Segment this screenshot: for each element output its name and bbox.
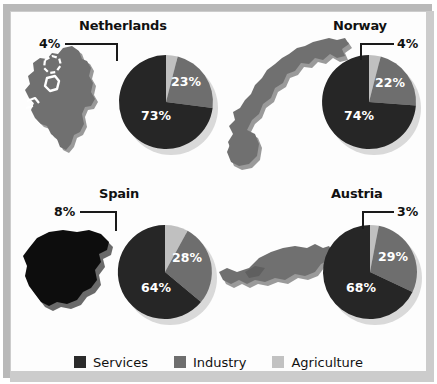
pie-netherlands: 23% 73% [116, 52, 220, 156]
legend-item-services[interactable]: Services [74, 355, 148, 370]
pie-label-industry: 28% [172, 250, 202, 265]
panel-spain: Spain 28% [11, 180, 219, 348]
callout-leader-horizontal [80, 211, 116, 213]
legend: Services Industry Agriculture [11, 348, 426, 371]
legend-item-industry[interactable]: Industry [174, 355, 246, 370]
callout-leader-horizontal [362, 211, 394, 213]
callout-spain-agriculture: 8% [54, 204, 75, 219]
callout-netherlands-agriculture: 4% [39, 36, 60, 51]
pie-label-industry: 23% [171, 74, 201, 89]
callout-norway-agriculture: 4% [397, 36, 418, 51]
figure-panel: Netherlands [11, 12, 426, 371]
pie-austria: 29% 68% [320, 222, 424, 326]
panel-austria: Austria [219, 180, 426, 348]
callout-leader-vertical [362, 211, 364, 229]
legend-swatch-industry [174, 356, 186, 368]
map-netherlands [21, 42, 101, 160]
callout-leader-vertical [116, 43, 118, 61]
callout-leader-horizontal [360, 43, 394, 45]
title-austria: Austria [331, 186, 383, 201]
pie-label-services: 64% [141, 280, 171, 295]
title-spain: Spain [99, 186, 139, 201]
pie-label-services: 73% [141, 108, 171, 123]
pie-label-industry: 29% [378, 249, 408, 264]
legend-swatch-services [74, 356, 86, 368]
figure-root: Netherlands [0, 0, 437, 384]
legend-label-industry: Industry [193, 355, 246, 370]
callout-leader-vertical [360, 43, 362, 60]
map-spain [23, 226, 119, 320]
panel-norway: Norway [219, 12, 426, 180]
panel-netherlands: Netherlands [11, 12, 219, 180]
legend-swatch-agriculture [272, 356, 284, 368]
pie-label-industry: 22% [375, 75, 405, 90]
callout-leader-vertical [115, 211, 117, 231]
pie-spain: 28% 64% [115, 222, 219, 326]
pie-label-services: 68% [346, 280, 376, 295]
title-netherlands: Netherlands [79, 18, 167, 33]
callout-leader-horizontal [65, 43, 117, 45]
legend-label-services: Services [93, 355, 148, 370]
legend-label-agriculture: Agriculture [291, 355, 363, 370]
legend-item-agriculture[interactable]: Agriculture [272, 355, 363, 370]
pie-label-services: 74% [344, 108, 374, 123]
pie-norway: 22% 74% [319, 52, 423, 156]
callout-austria-agriculture: 3% [397, 204, 418, 219]
